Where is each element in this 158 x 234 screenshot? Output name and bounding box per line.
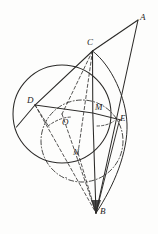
right-arc (93, 51, 128, 213)
line-eb (96, 120, 120, 213)
arc-angle-m (97, 121, 114, 126)
point-label-D: D (27, 96, 34, 105)
point-label-N: N (73, 148, 79, 157)
line-ab (96, 20, 138, 213)
point-label-A: A (140, 13, 146, 22)
point-label-C: C (87, 38, 93, 47)
line-co-dashed (62, 51, 93, 114)
geometry-drawing-canvas (0, 0, 158, 234)
geometry-figure: A C D M E O N B (0, 0, 158, 234)
construction-spur-d (35, 105, 49, 127)
line-ob-dashed (62, 114, 96, 213)
line-cb (93, 51, 97, 213)
point-label-M: M (95, 103, 103, 112)
point-label-O: O (62, 118, 69, 127)
point-label-E: E (120, 114, 126, 123)
point-label-B: B (100, 207, 106, 216)
